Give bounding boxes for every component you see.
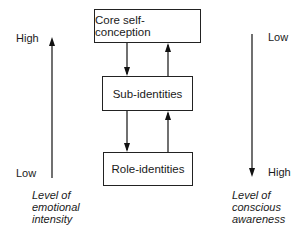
right-axis-low-label: Low (268, 31, 288, 43)
arrow-down-icon (249, 168, 255, 177)
sub-identities-box: Sub-identities (102, 76, 193, 111)
left-axis-low-label: Low (16, 167, 36, 179)
box-label: Core self-conception (95, 14, 200, 38)
box-label: Role-identities (112, 163, 185, 175)
right-axis-caption: Level of conscious awareness (232, 189, 285, 225)
left-axis-caption: Level of emotional intensity (32, 189, 80, 225)
right-axis-high-label: High (268, 166, 291, 178)
core-self-conception-box: Core self-conception (94, 9, 201, 43)
role-identities-box: Role-identities (103, 152, 193, 186)
box-label: Sub-identities (113, 88, 183, 100)
left-axis-high-label: High (16, 32, 39, 44)
arrow-up-icon (49, 37, 55, 46)
